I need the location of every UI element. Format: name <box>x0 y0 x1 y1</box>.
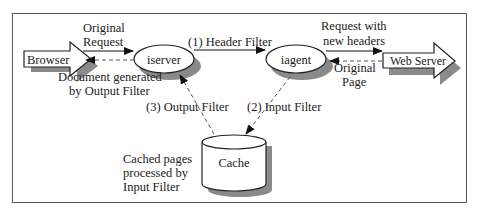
cache-note-line2: processed by <box>123 166 189 180</box>
document-generated-label-line2: by Output Filter <box>69 84 150 98</box>
request-new-headers-label-line1: Request with <box>321 19 387 33</box>
output-filter-label: (3) Output Filter <box>146 100 229 114</box>
iserver-label: iserver <box>147 53 182 67</box>
original-page-label-line2: Page <box>342 75 367 89</box>
cache-label: Cache <box>218 156 250 170</box>
browser-label: Browser <box>27 53 70 67</box>
webserver-label: Web Server <box>390 54 446 68</box>
webserver-node: Web Server <box>383 43 461 85</box>
header-filter-label: (1) Header Filter <box>188 35 273 49</box>
cache-note-line1: Cached pages <box>123 152 192 166</box>
iagent-node: iagent <box>266 45 333 80</box>
cache-node: Cache <box>202 135 272 197</box>
request-new-headers-label-line2: new headers <box>323 34 385 48</box>
original-request-label-line1: Original <box>83 21 125 35</box>
input-filter-label: (2) Input Filter <box>247 100 322 114</box>
cache-top <box>202 135 266 149</box>
iserver-iagent-architecture-diagram: Browser Web Server iserver iagent Cache … <box>0 0 477 213</box>
original-page-label-line1: Original <box>334 61 376 75</box>
original-request-label-line2: Request <box>83 35 124 49</box>
cache-note-line3: Input Filter <box>123 180 180 194</box>
iagent-label: iagent <box>281 53 312 67</box>
document-generated-label-line1: Document generated <box>58 70 163 84</box>
